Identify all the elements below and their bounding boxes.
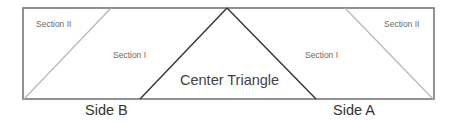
label-section-i-right: Section I	[305, 51, 338, 60]
label-side-a: Side A	[333, 103, 375, 118]
label-section-i-left: Section I	[113, 51, 146, 60]
label-section-ii-left: Section II	[36, 20, 71, 29]
label-side-b: Side B	[85, 103, 128, 118]
label-section-ii-right: Section II	[384, 20, 419, 29]
label-center-triangle: Center Triangle	[180, 73, 279, 88]
